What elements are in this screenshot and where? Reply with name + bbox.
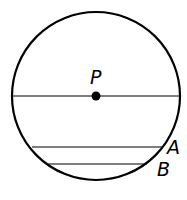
circle-diagram: P A B xyxy=(0,0,187,200)
label-p: P xyxy=(90,66,102,88)
center-point xyxy=(92,92,101,101)
label-b: B xyxy=(157,158,170,180)
label-a: A xyxy=(165,136,180,158)
